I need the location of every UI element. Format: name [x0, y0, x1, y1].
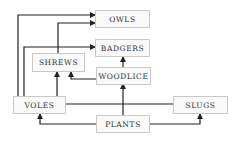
- node-label: OWLS: [109, 15, 135, 24]
- node-plants: PLANTS: [96, 115, 150, 133]
- node-shrews: SHREWS: [32, 53, 85, 72]
- node-label: VOLES: [24, 101, 54, 110]
- node-voles: VOLES: [13, 96, 66, 114]
- node-owls: OWLS: [95, 10, 150, 28]
- node-label: WOODLICE: [99, 72, 149, 81]
- edge-woodlice-shrews: [71, 72, 96, 79]
- node-badgers: BADGERS: [95, 39, 150, 57]
- node-label: PLANTS: [105, 120, 141, 129]
- edge-plants-voles: [40, 114, 96, 124]
- food-web-diagram: OWLS BADGERS SHREWS WOODLICE VOLES SLUGS…: [0, 0, 240, 142]
- node-label: SHREWS: [39, 58, 78, 67]
- node-slugs: SLUGS: [173, 96, 228, 114]
- node-label: SLUGS: [185, 101, 215, 110]
- edge-shrews-owls: [58, 23, 95, 53]
- node-woodlice: WOODLICE: [96, 67, 151, 85]
- edge-plants-slugs: [150, 114, 200, 124]
- node-label: BADGERS: [101, 44, 144, 53]
